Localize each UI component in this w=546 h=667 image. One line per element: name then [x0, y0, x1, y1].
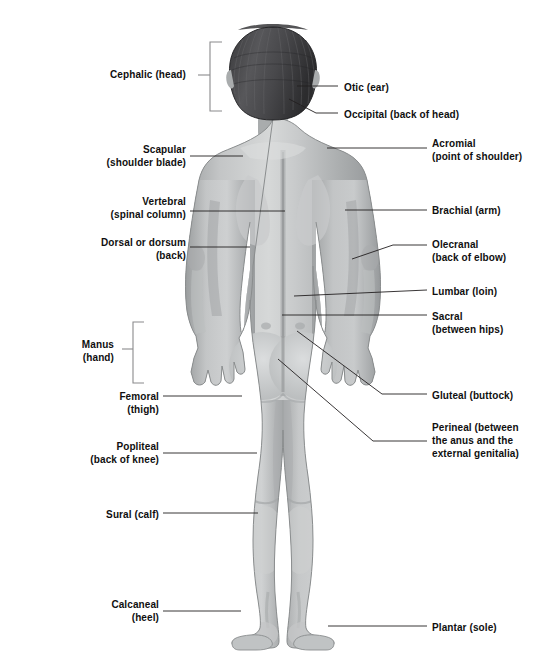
label-sacral: Sacral (between hips) — [432, 310, 544, 336]
perineal-leader — [278, 359, 427, 441]
label-cephalic: Cephalic (head) — [108, 68, 186, 81]
label-calcaneal: Calcaneal (heel) — [46, 598, 159, 624]
label-vertebral: Vertebral (spinal column) — [36, 195, 186, 221]
lumbar-leader — [294, 290, 427, 296]
label-olecranal: Olecranal (back of elbow) — [432, 238, 544, 264]
cephalic-bracket — [210, 42, 222, 111]
label-popliteal: Popliteal (back of knee) — [26, 440, 159, 466]
label-gluteal: Gluteal (buttock) — [432, 389, 544, 402]
gluteal-leader — [297, 331, 427, 394]
label-perineal: Perineal (between the anus and the exter… — [432, 421, 546, 460]
label-sural: Sural (calf) — [46, 508, 159, 521]
olecranal-leader — [352, 245, 427, 259]
label-dorsal: Dorsal or dorsum (back) — [26, 236, 186, 262]
label-manus: Manus (hand) — [46, 338, 114, 364]
manus-bracket — [133, 322, 144, 383]
label-scapular: Scapular (shoulder blade) — [36, 143, 186, 169]
label-otic: Otic (ear) — [344, 81, 534, 94]
anatomy-diagram: Cephalic (head)Scapular (shoulder blade)… — [0, 0, 546, 667]
label-lumbar: Lumbar (loin) — [432, 285, 544, 298]
label-acromial: Acromial (point of shoulder) — [432, 137, 544, 163]
label-plantar: Plantar (sole) — [432, 621, 544, 634]
label-brachial: Brachial (arm) — [432, 204, 544, 217]
label-femoral: Femoral (thigh) — [46, 390, 159, 416]
label-occipital: Occipital (back of head) — [344, 108, 542, 121]
occipital-leader — [289, 99, 338, 113]
